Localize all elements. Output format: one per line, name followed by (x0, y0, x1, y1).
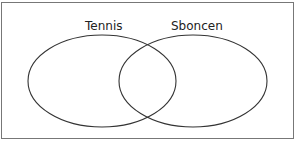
set-ellipse-tennis (28, 35, 176, 127)
set-label-tennis: Tennis (85, 19, 122, 33)
set-ellipse-sboncen (119, 35, 267, 127)
venn-ellipses (0, 0, 296, 142)
set-label-sboncen: Sboncen (171, 19, 223, 33)
venn-diagram: Tennis Sboncen (0, 0, 296, 142)
